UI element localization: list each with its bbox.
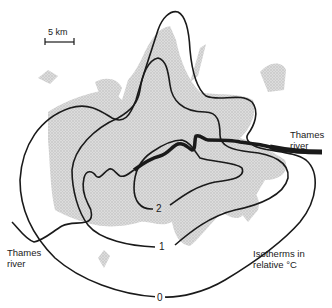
river-label-east-line2: river	[290, 140, 324, 151]
scale-bar-label: 5 km	[48, 27, 68, 37]
legend-note-line2: relative °C	[253, 259, 305, 270]
river-label-east-line1: Thames	[290, 129, 324, 140]
legend-note-line1: Isotherms in	[253, 248, 305, 259]
river-label-east: Thames river	[290, 129, 324, 151]
legend-note: Isotherms in relative °C	[253, 248, 305, 270]
isotherm-0-label: 0	[155, 292, 165, 303]
river-label-west-line1: Thames	[7, 247, 41, 258]
built-up-area	[38, 26, 286, 268]
isotherm-1-label: 1	[157, 241, 167, 252]
river-label-west: Thames river	[7, 247, 41, 269]
scale-bar	[45, 38, 74, 45]
isotherm-2-label: 2	[154, 203, 164, 214]
river-label-west-line2: river	[7, 258, 41, 269]
